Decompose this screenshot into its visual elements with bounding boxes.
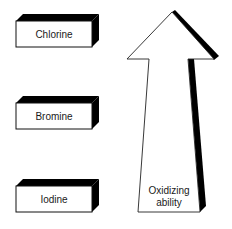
box-label-bromine: Bromine	[35, 111, 73, 122]
halogen-box-bromine: Bromine	[16, 96, 99, 129]
halogen-box-iodine: Iodine	[16, 179, 99, 212]
arrow-label-line2: ability	[156, 197, 182, 208]
halogen-box-chlorine: Chlorine	[16, 14, 99, 47]
box-label-chlorine: Chlorine	[35, 29, 73, 40]
box-top-face	[16, 14, 99, 21]
arrow-label-line1: Oxidizing	[148, 185, 189, 196]
oxidizing-ability-arrow: Oxidizing ability	[127, 10, 219, 212]
box-top-face	[16, 179, 99, 186]
oxidizing-ability-diagram: Chlorine Bromine Iodine Oxidizing abilit…	[0, 0, 232, 229]
box-label-iodine: Iodine	[40, 194, 68, 205]
box-top-face	[16, 96, 99, 103]
